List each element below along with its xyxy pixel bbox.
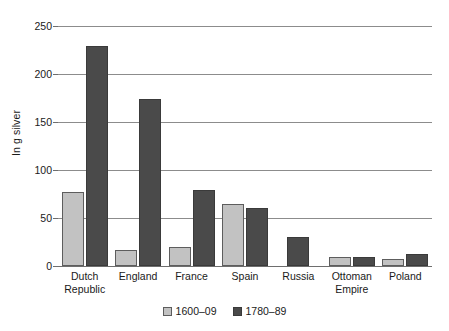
- bar[interactable]: [382, 259, 404, 266]
- y-tick-label: 100: [6, 164, 52, 176]
- bar[interactable]: [406, 254, 428, 266]
- axis-baseline: [58, 266, 432, 267]
- bar[interactable]: [353, 257, 375, 266]
- bar[interactable]: [246, 208, 268, 266]
- x-tick-label-line2: Empire: [325, 283, 378, 296]
- legend-item[interactable]: 1600–09: [163, 305, 217, 317]
- bar-group: [111, 26, 164, 266]
- bar-group: [218, 26, 271, 266]
- x-tick-label-line1: Spain: [232, 270, 259, 282]
- y-tick-label: 0: [6, 260, 52, 272]
- x-tick-label-line1: France: [175, 270, 208, 282]
- bar[interactable]: [62, 192, 84, 266]
- y-tick-label: 150: [6, 116, 52, 128]
- x-tick-label-line1: Dutch: [71, 270, 98, 282]
- x-tick-label-line1: Russia: [282, 270, 314, 282]
- x-tick-label-line1: Ottoman: [332, 270, 372, 282]
- y-tick-label: 50: [6, 212, 52, 224]
- y-tick-label: 250: [6, 20, 52, 32]
- bar[interactable]: [287, 237, 309, 266]
- x-tick-label: France: [165, 270, 218, 295]
- legend-label: 1780–89: [246, 305, 287, 317]
- bar[interactable]: [222, 204, 244, 266]
- y-axis-title: In g silver: [4, 0, 28, 266]
- x-tick-label: Russia: [272, 270, 325, 295]
- x-tick-label: DutchRepublic: [58, 270, 111, 295]
- x-tick-label: Spain: [218, 270, 271, 295]
- x-tick-label-line2: Republic: [58, 283, 111, 296]
- x-axis-labels: DutchRepublicEnglandFranceSpainRussiaOtt…: [58, 270, 432, 295]
- bar-group: [379, 26, 432, 266]
- bar[interactable]: [115, 250, 137, 266]
- legend-item[interactable]: 1780–89: [233, 305, 287, 317]
- legend-label: 1600–09: [176, 305, 217, 317]
- x-tick-label: OttomanEmpire: [325, 270, 378, 295]
- legend-swatch: [233, 307, 242, 316]
- bar[interactable]: [329, 257, 351, 266]
- plot-area: [58, 26, 432, 266]
- bar[interactable]: [193, 190, 215, 266]
- x-tick-label-line1: Poland: [389, 270, 422, 282]
- bar-group: [272, 26, 325, 266]
- x-tick-label: Poland: [379, 270, 432, 295]
- legend-swatch: [163, 307, 172, 316]
- bar-groups: [58, 26, 432, 266]
- bar[interactable]: [139, 99, 161, 266]
- x-tick-label: England: [111, 270, 164, 295]
- bar-group: [165, 26, 218, 266]
- bar-group: [58, 26, 111, 266]
- bar-chart: In g silver 050100150200250 DutchRepubli…: [0, 0, 449, 331]
- y-tick-label: 200: [6, 68, 52, 80]
- bar-group: [325, 26, 378, 266]
- bar[interactable]: [169, 247, 191, 266]
- chart-legend: 1600–091780–89: [0, 305, 449, 317]
- bar[interactable]: [86, 46, 108, 266]
- x-tick-label-line1: England: [119, 270, 158, 282]
